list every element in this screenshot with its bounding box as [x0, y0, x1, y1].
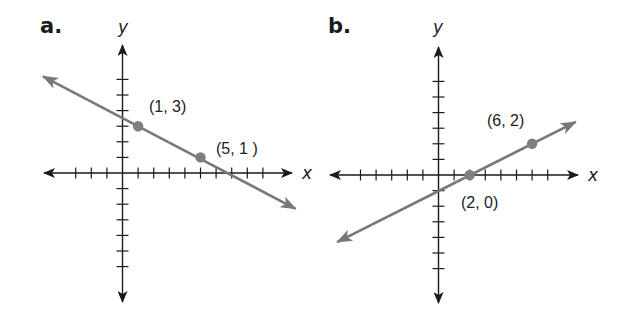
point-label: (1, 3) — [149, 98, 186, 115]
graph-b: b.xy(6, 2)(2, 0) — [328, 14, 599, 303]
data-point — [465, 170, 475, 180]
point-label: (5, 1 ) — [216, 140, 258, 157]
graph-a: a.xy(1, 3)(5, 1 ) — [40, 14, 313, 302]
data-point — [195, 152, 205, 162]
panel-label: b. — [328, 14, 351, 38]
figure: a.xy(1, 3)(5, 1 ) b.xy(6, 2)(2, 0) — [0, 0, 618, 318]
panel-label: a. — [40, 14, 62, 38]
data-point — [527, 139, 537, 149]
point-label: (6, 2) — [487, 112, 524, 129]
x-axis-label: x — [301, 163, 313, 183]
x-axis-label: x — [587, 165, 599, 185]
y-axis-label: y — [432, 17, 444, 37]
y-axis-label: y — [117, 17, 129, 37]
data-point — [133, 121, 143, 131]
point-label: (2, 0) — [461, 194, 498, 211]
